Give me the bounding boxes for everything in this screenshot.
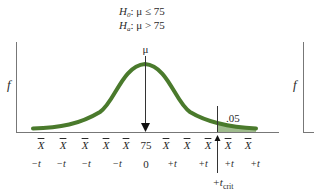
x-label: X [205, 140, 212, 150]
distribution-curve [33, 64, 256, 129]
x-label: X [123, 140, 130, 150]
t-label: −t [31, 159, 41, 169]
x-label: X [245, 140, 252, 150]
critical-value-label: +tcrit [212, 176, 233, 191]
t-label: −t [112, 159, 122, 169]
second-panel-y-axis-label: f [293, 77, 297, 93]
t-zero-label: 0 [143, 159, 149, 169]
x-label: X [60, 140, 67, 150]
x-label: X [163, 140, 170, 150]
mean-label: μ [143, 43, 149, 55]
distribution-plot [0, 0, 314, 194]
t-label: +t [167, 159, 177, 169]
t-label: +t [250, 159, 260, 169]
t-label: −t [81, 159, 91, 169]
x-label: X [184, 140, 191, 150]
x-label: X [82, 140, 89, 150]
x-label: X [225, 140, 232, 150]
x-label: X [38, 140, 45, 150]
x-label: X [103, 140, 110, 150]
y-axis-label: f [7, 77, 11, 93]
critical-arrowhead-icon [215, 135, 221, 141]
mean-arrowhead-icon [141, 123, 150, 132]
mean-value-label: 75 [141, 140, 152, 150]
alpha-label: .05 [226, 112, 240, 124]
t-label: +t [198, 159, 208, 169]
t-label: −t [56, 159, 66, 169]
t-label: +t [224, 159, 234, 169]
